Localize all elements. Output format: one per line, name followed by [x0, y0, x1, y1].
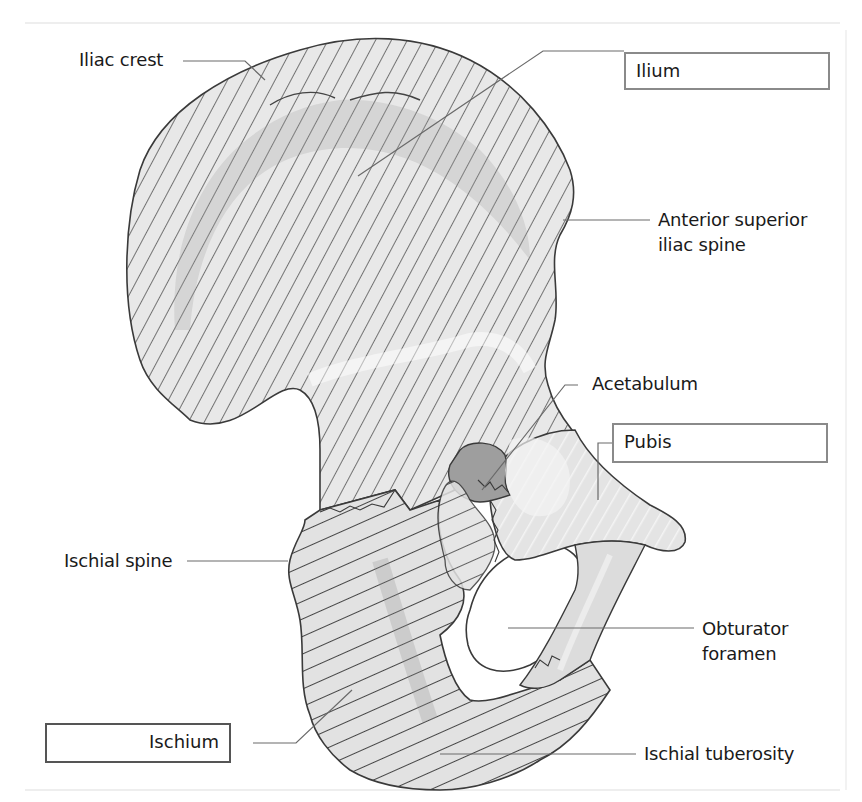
- label-asis-line1: Anterior superior: [658, 209, 807, 231]
- label-iliac-crest: Iliac crest: [79, 49, 163, 71]
- box-label-pubis-text: Pubis: [624, 431, 672, 452]
- label-asis-line2: iliac spine: [658, 234, 746, 256]
- box-label-pubis: Pubis: [612, 423, 828, 463]
- box-label-ilium: Ilium: [624, 52, 830, 90]
- box-label-ischium-text: Ischium: [149, 731, 219, 752]
- label-ischial-tuberosity: Ischial tuberosity: [644, 743, 794, 765]
- box-label-ischium: Ischium: [45, 723, 231, 763]
- label-obturator-line2: foramen: [702, 643, 776, 665]
- ilium-region: [127, 39, 574, 510]
- label-acetabulum: Acetabulum: [592, 373, 698, 395]
- box-label-ilium-text: Ilium: [636, 60, 680, 81]
- label-ischial-spine: Ischial spine: [64, 550, 172, 572]
- label-obturator-line1: Obturator: [702, 618, 788, 640]
- hip-bone-illustration: [0, 0, 862, 802]
